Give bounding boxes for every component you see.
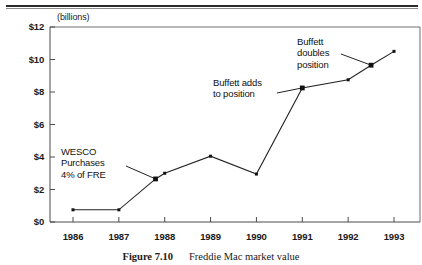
annotation-buffett-adds: Buffett adds to position: [213, 77, 262, 100]
x-axis-ticks: [73, 217, 394, 222]
figure-page: (billions) $0 $2 $4 $6 $8 $10 $12 1986 1…: [0, 0, 422, 265]
plot-frame: [50, 27, 420, 222]
x-tick-label-1989: 1989: [191, 231, 231, 242]
line-chart: [0, 0, 422, 265]
y-tick-label-8: $8: [20, 86, 44, 97]
x-tick-label-1992: 1992: [328, 231, 368, 242]
figure-number: Figure 7.10: [122, 251, 173, 262]
annotation-wesco-purchase: WESCO Purchases 4% of FRE: [61, 146, 106, 180]
x-tick-label-1987: 1987: [99, 231, 139, 242]
series-markers: [72, 50, 396, 211]
annotation-buffett-doubles: Buffett doubles position: [297, 36, 329, 70]
y-axis-ticks: [50, 27, 55, 222]
x-tick-label-1986: 1986: [53, 231, 93, 242]
series-line-freddie-mac: [73, 51, 394, 209]
x-tick-label-1993: 1993: [374, 231, 414, 242]
y-tick-label-2: $2: [20, 184, 44, 195]
y-tick-label-4: $4: [20, 151, 44, 162]
y-tick-label-6: $6: [20, 119, 44, 130]
annotation-leader-lines: [126, 54, 371, 179]
figure-caption: Figure 7.10Freddie Mac market value: [0, 251, 422, 262]
y-tick-label-0: $0: [20, 216, 44, 227]
x-tick-label-1988: 1988: [145, 231, 185, 242]
y-tick-label-10: $10: [20, 54, 44, 65]
y-tick-label-12: $12: [20, 21, 44, 32]
x-tick-label-1991: 1991: [282, 231, 322, 242]
x-tick-label-1990: 1990: [236, 231, 276, 242]
figure-caption-text: Freddie Mac market value: [189, 251, 300, 262]
